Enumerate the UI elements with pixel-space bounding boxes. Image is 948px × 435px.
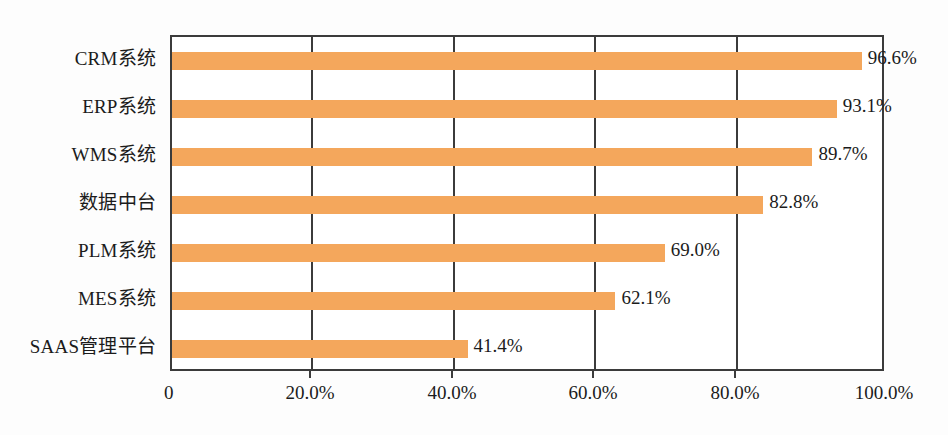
x-tick-label: 0: [164, 381, 174, 405]
data-label: 96.6%: [868, 47, 917, 69]
horizontal-bar-chart: CRM系统 ERP系统 WMS系统 数据中台 PLM系统 MES系统 SAAS管…: [0, 0, 948, 435]
bar[interactable]: [172, 292, 615, 310]
bar[interactable]: [172, 340, 468, 358]
data-label: 62.1%: [621, 287, 670, 309]
data-label: 89.7%: [818, 143, 867, 165]
tick-mark: [451, 371, 453, 378]
bar-row: [172, 229, 882, 277]
category-label: 数据中台: [0, 193, 156, 212]
bar[interactable]: [172, 244, 665, 262]
category-label: MES系统: [0, 289, 156, 308]
x-tick-label: 60.0%: [568, 381, 617, 405]
data-label: 93.1%: [843, 95, 892, 117]
bar-row: [172, 37, 882, 85]
x-tick-label: 100.0%: [855, 381, 914, 405]
category-label: PLM系统: [0, 241, 156, 260]
tick-mark: [734, 371, 736, 378]
bar[interactable]: [172, 100, 837, 118]
bar[interactable]: [172, 196, 763, 214]
x-tick-label: 20.0%: [285, 381, 334, 405]
bar[interactable]: [172, 148, 812, 166]
bar[interactable]: [172, 52, 862, 70]
data-label: 82.8%: [769, 191, 818, 213]
category-label: WMS系统: [0, 145, 156, 164]
category-axis: CRM系统 ERP系统 WMS系统 数据中台 PLM系统 MES系统 SAAS管…: [0, 35, 163, 371]
bar-row: [172, 85, 882, 133]
x-tick-label: 40.0%: [427, 381, 476, 405]
bar-row: [172, 277, 882, 325]
x-tick-label: 80.0%: [710, 381, 759, 405]
data-label: 41.4%: [474, 335, 523, 357]
data-label: 69.0%: [671, 239, 720, 261]
category-label: SAAS管理平台: [0, 337, 156, 356]
category-label: CRM系统: [0, 49, 156, 68]
category-label: ERP系统: [0, 97, 156, 116]
x-axis: 0 20.0% 40.0% 60.0% 80.0% 100.0%: [0, 381, 948, 415]
bar-row: [172, 133, 882, 181]
tick-mark: [309, 371, 311, 378]
bar-row: [172, 325, 882, 373]
tick-mark: [592, 371, 594, 378]
